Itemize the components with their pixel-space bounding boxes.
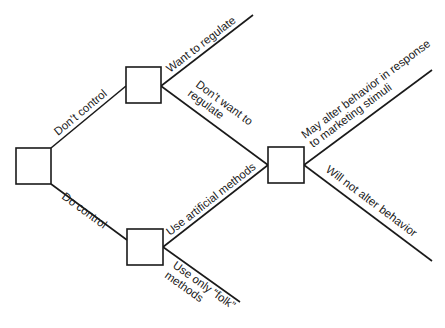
edge-use-artificial-methods [163, 165, 268, 247]
label-dont-control: Don’t control [52, 87, 109, 137]
label-will-not-alter-behavior: Will not alter behavior [324, 163, 420, 239]
dont-control-decision-node [126, 67, 161, 103]
label-use-artificial-methods: Use artificial methods [164, 160, 258, 237]
label-do-control: Do control [60, 190, 109, 231]
root-decision-node [16, 148, 51, 184]
label-want-to-regulate: Want to regulate [164, 14, 238, 75]
decision-tree-diagram: Don’t control Do control Want to regulat… [0, 0, 445, 328]
label-may-alter-line1: May alter behavior in response [299, 37, 432, 140]
response-decision-node [268, 147, 304, 183]
do-control-decision-node [127, 229, 163, 265]
edge-want-to-regulate [161, 15, 253, 86]
edge-will-not-alter-behavior [304, 165, 432, 261]
edge-dont-control [51, 86, 126, 148]
